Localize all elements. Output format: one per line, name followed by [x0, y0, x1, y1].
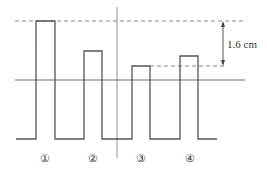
measurement-arrow [221, 21, 225, 66]
pulse-diagram: 1.6 cm ① ② ③ ④ [0, 0, 267, 177]
pulse-label-3: ③ [136, 152, 146, 164]
pulse-label-2: ② [88, 152, 98, 164]
pulse-label-4: ④ [185, 152, 195, 164]
measurement-label: 1.6 cm [227, 38, 257, 50]
pulse-label-1: ① [40, 152, 50, 164]
